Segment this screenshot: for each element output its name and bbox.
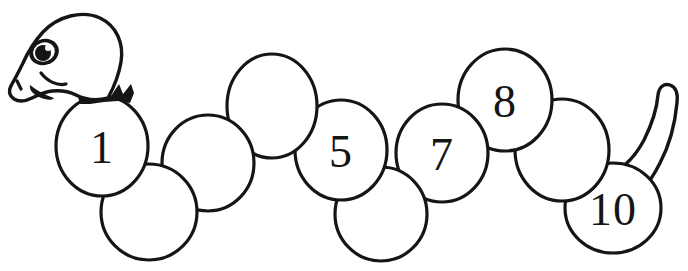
segment-number-7: 7 [430, 129, 454, 180]
segment-number-5: 5 [329, 126, 353, 177]
caterpillar-illustration: 10 8 7 [0, 0, 688, 271]
segment-number-10: 10 [589, 184, 637, 235]
eye-highlight-icon [45, 45, 51, 51]
worksheet-canvas: 10 8 7 [0, 0, 688, 271]
segment-number-8: 8 [493, 76, 517, 127]
segment-number-1: 1 [90, 122, 114, 173]
body-segment-1[interactable]: 1 [56, 96, 148, 196]
